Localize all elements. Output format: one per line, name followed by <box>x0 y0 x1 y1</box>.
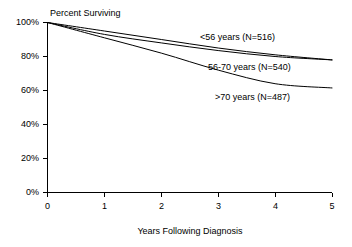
x-axis-title: Years Following Diagnosis <box>137 226 243 236</box>
series-line-56-to-70 <box>48 23 333 60</box>
x-tick-label-2: 2 <box>159 201 164 211</box>
y-tick-label-80: 80% <box>21 51 39 61</box>
series-line-under-56 <box>48 23 333 60</box>
series-label-over-70: >70 years (N=487) <box>215 92 290 102</box>
x-tick-label-3: 3 <box>216 201 221 211</box>
y-tick-label-60: 60% <box>21 85 39 95</box>
y-tick-label-20: 20% <box>21 153 39 163</box>
x-tick-label-1: 1 <box>102 201 107 211</box>
y-tick-label-100: 100% <box>16 17 39 27</box>
series-line-over-70 <box>48 23 333 88</box>
chart-title: Percent Surviving <box>50 8 121 18</box>
x-tick-label-5: 5 <box>329 201 334 211</box>
y-tick-label-0: 0% <box>26 187 39 197</box>
series-label-56-to-70: 56-70 years (N=540) <box>208 62 291 72</box>
y-tick-label-40: 40% <box>21 119 39 129</box>
survival-chart: Percent Surviving 0% 20% 40% 60% 80% 100… <box>0 0 352 247</box>
series-label-under-56: <56 years (N=516) <box>200 32 275 42</box>
chart-canvas: Percent Surviving 0% 20% 40% 60% 80% 100… <box>0 0 352 247</box>
x-tick-label-0: 0 <box>45 201 50 211</box>
x-tick-label-4: 4 <box>273 201 278 211</box>
